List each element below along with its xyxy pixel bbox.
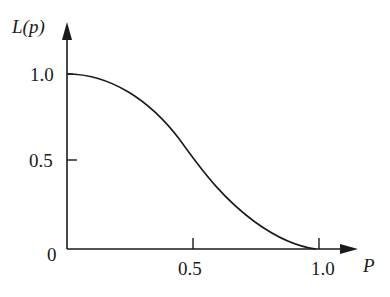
y-axis-label: L(p) — [11, 16, 45, 38]
x-axis-arrow-icon — [340, 244, 358, 254]
y-tick-label-05: 0.5 — [29, 150, 53, 171]
oc-curve — [67, 74, 316, 249]
origin-label: 0 — [47, 244, 57, 265]
y-tick-label-1: 1.0 — [30, 64, 54, 85]
oc-curve-chart: L(p) P 1.0 0.5 0 0.5 1.0 — [0, 0, 390, 297]
x-tick-label-1: 1.0 — [311, 258, 335, 279]
x-tick-label-05: 0.5 — [178, 258, 202, 279]
x-axis-label: P — [362, 255, 375, 276]
y-axis-arrow-icon — [62, 22, 72, 40]
